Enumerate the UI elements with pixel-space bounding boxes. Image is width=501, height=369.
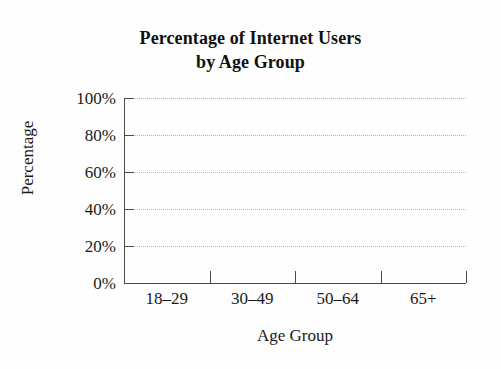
y-axis-tick [125,135,134,136]
y-axis-tick [125,98,134,99]
y-axis-tick-label: 40% [56,201,116,218]
x-axis-title: Age Group [124,326,466,346]
x-axis-tick [295,271,296,283]
y-axis-tick-label: 60% [56,164,116,181]
bar-slot [210,98,296,283]
y-axis-tick-labels: 0%20%40%60%80%100% [54,98,116,284]
chart-title-line-2: by Age Group [0,50,501,74]
y-axis-tick-label: 100% [56,90,116,107]
bars-layer [124,98,466,283]
x-axis-tick [466,271,467,283]
x-axis-tick [381,271,382,283]
y-axis-tick [125,246,134,247]
plot-area [124,98,466,283]
y-axis-tick [125,283,134,284]
chart-title: Percentage of Internet Users by Age Grou… [0,26,501,74]
y-axis-line [124,98,125,284]
bar-slot [295,98,381,283]
x-axis-tick-label: 50–64 [295,290,381,312]
y-axis-tick-label: 80% [56,127,116,144]
chart-title-line-1: Percentage of Internet Users [0,26,501,50]
x-axis-tick-label: 30–49 [210,290,296,312]
x-axis-tick-label: 65+ [381,290,467,312]
y-axis-tick [125,209,134,210]
x-axis-tick-label: 18–29 [124,290,210,312]
y-axis-tick [125,172,134,173]
bar-slot [381,98,467,283]
x-axis-tick-labels: 18–2930–4950–6465+ [124,290,466,312]
y-axis-title: Percentage [18,103,38,213]
bar-slot [124,98,210,283]
x-axis-tick [210,271,211,283]
y-axis-tick-label: 0% [56,275,116,292]
y-axis-tick-label: 20% [56,238,116,255]
x-axis-line [124,283,466,284]
chart-figure: Percentage of Internet Users by Age Grou… [0,0,501,369]
